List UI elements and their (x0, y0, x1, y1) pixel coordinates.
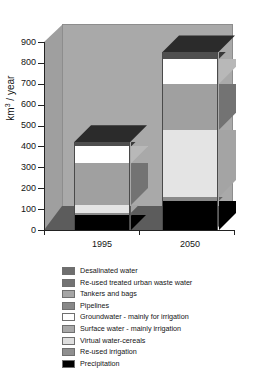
bar-segment (162, 130, 218, 197)
bar-segment-face (163, 59, 217, 84)
x-tick-label: 1995 (72, 239, 132, 249)
chart-figure: km3 / year 9008007006005004003002001000 … (0, 0, 269, 383)
y-tick-label: 900 (2, 38, 36, 47)
y-tick-label: 0 (2, 226, 36, 235)
bar-segment-face (75, 163, 129, 205)
legend-swatch (62, 360, 75, 368)
x-tick-mark (234, 230, 235, 235)
bar-segment-face (75, 146, 129, 163)
bar-segment (74, 215, 130, 230)
y-tick-label: 300 (2, 163, 36, 172)
legend-swatch (62, 325, 75, 333)
y-tick-mark (38, 188, 44, 189)
bar-segment-side (219, 130, 236, 197)
bar-segment (162, 52, 218, 58)
y-tick-label: 200 (2, 184, 36, 193)
legend-label: Desalinated water (80, 266, 138, 276)
bar-segment (74, 205, 130, 213)
legend-swatch (62, 337, 75, 345)
y-tick-mark (38, 63, 44, 64)
chart-plot-area: km3 / year 9008007006005004003002001000 … (0, 0, 269, 262)
y-tick-mark (38, 167, 44, 168)
legend-swatch (62, 267, 75, 275)
legend-swatch (62, 290, 75, 298)
bar-segment-face (75, 205, 129, 213)
legend-swatch (62, 348, 75, 356)
y-tick-label: 700 (2, 79, 36, 88)
plot-side-wall (44, 24, 63, 230)
bar-segment-face (163, 52, 217, 58)
y-tick-mark (38, 105, 44, 106)
legend-item: Re-used irrigation (0, 347, 269, 359)
y-tick-label: 400 (2, 142, 36, 151)
bar-segment-face (163, 201, 217, 230)
bar-segment-face (163, 197, 217, 201)
legend-item: Re-used treated urban waste water (0, 278, 269, 290)
y-tick-mark (38, 84, 44, 85)
legend-label: Pipelines (80, 301, 109, 311)
y-tick-mark (38, 146, 44, 147)
legend-label: Precipitation (80, 359, 120, 369)
bar-segment (162, 84, 218, 130)
legend-label: Re-used treated urban waste water (80, 278, 192, 288)
legend-item: Virtual water-cereals (0, 336, 269, 348)
bar-segment-side (219, 201, 236, 230)
legend-label: Surface water - mainly irrigation (80, 324, 181, 334)
bar-segment-face (163, 130, 217, 197)
legend-label: Virtual water-cereals (80, 336, 145, 346)
x-tick-mark (44, 230, 45, 235)
x-tick-mark (139, 230, 140, 235)
legend-item: Pipelines (0, 301, 269, 313)
bar-segment-face (75, 215, 129, 230)
legend-label: Re-used irrigation (80, 347, 137, 357)
legend-item: Desalinated water (0, 266, 269, 278)
legend-label: Groundwater - mainly for irrigation (80, 312, 189, 322)
bar-segment (74, 146, 130, 163)
bar-segment-face (75, 213, 129, 216)
chart-legend: Desalinated waterRe-used treated urban w… (0, 266, 269, 383)
legend-swatch (62, 313, 75, 321)
bar-segment (162, 59, 218, 84)
y-tick-mark (38, 209, 44, 210)
y-tick-label: 600 (2, 100, 36, 109)
bar-segment-face (163, 84, 217, 130)
legend-item: Tankers and bags (0, 289, 269, 301)
y-axis-line (44, 42, 45, 231)
legend-swatch (62, 279, 75, 287)
bar-segment-face (75, 142, 129, 146)
bar-segment (74, 142, 130, 146)
y-tick-mark (38, 126, 44, 127)
y-tick-label: 500 (2, 121, 36, 130)
legend-item: Precipitation (0, 359, 269, 371)
bar-segment (74, 213, 130, 216)
y-tick-label: 100 (2, 205, 36, 214)
bar-segment (162, 201, 218, 230)
legend-item: Groundwater - mainly for irrigation (0, 312, 269, 324)
y-tick-label: 800 (2, 58, 36, 67)
legend-swatch (62, 302, 75, 310)
y-tick-mark (38, 42, 44, 43)
x-tick-label: 2050 (160, 239, 220, 249)
legend-item: Surface water - mainly irrigation (0, 324, 269, 336)
legend-label: Tankers and bags (80, 289, 137, 299)
bar-segment (74, 163, 130, 205)
bar-segment (162, 197, 218, 201)
